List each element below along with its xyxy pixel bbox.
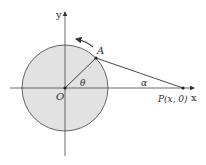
label-theta: θ: [80, 78, 86, 88]
y-axis-label: y: [55, 9, 62, 20]
point-origin: [63, 86, 66, 89]
label-alpha: α: [141, 78, 147, 88]
point-A: [94, 56, 97, 59]
label-P: P(x, 0): [157, 94, 188, 104]
label-P-coords: (x, 0): [164, 94, 188, 104]
segment-AP: [96, 58, 183, 88]
label-A: A: [96, 45, 104, 56]
diagram-canvas: y x A O θ α P(x, 0): [0, 0, 206, 165]
point-P: [181, 86, 184, 89]
x-axis-label: x: [191, 92, 197, 103]
rotation-arrow-icon: [76, 39, 93, 47]
label-O: O: [56, 91, 64, 102]
